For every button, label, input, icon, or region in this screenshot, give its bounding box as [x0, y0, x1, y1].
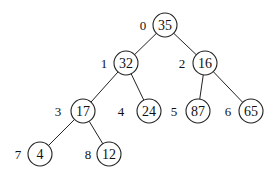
node-index-label: 6	[225, 104, 232, 119]
tree-node: 875	[171, 99, 210, 123]
node-index-label: 1	[101, 56, 108, 71]
node-value: 16	[198, 56, 212, 71]
tree-edge	[48, 119, 74, 145]
tree-node: 656	[225, 99, 263, 123]
node-value: 24	[142, 104, 156, 119]
node-index-label: 8	[85, 147, 92, 162]
tree-node: 350	[140, 13, 177, 37]
heap-tree-diagram: 35032116217324487565647128	[0, 0, 279, 172]
tree-node: 321	[101, 51, 138, 75]
tree-node: 173	[55, 99, 95, 123]
node-value: 4	[37, 147, 44, 162]
node-value: 65	[244, 104, 258, 119]
node-index-label: 4	[118, 104, 125, 119]
node-value: 32	[119, 56, 133, 71]
tree-node: 47	[15, 142, 52, 166]
node-index-label: 2	[179, 56, 186, 71]
tree-edge	[89, 121, 103, 143]
node-value: 17	[76, 104, 90, 119]
node-value: 87	[191, 104, 205, 119]
tree-node: 162	[179, 51, 217, 75]
tree-edges	[48, 33, 242, 145]
tree-edge	[131, 74, 144, 100]
tree-edge	[174, 33, 197, 54]
node-index-label: 5	[171, 104, 178, 119]
node-index-label: 0	[140, 18, 147, 33]
node-index-label: 3	[55, 104, 62, 119]
tree-edge	[91, 72, 118, 102]
node-value: 12	[102, 147, 116, 162]
tree-node: 128	[85, 142, 121, 166]
tree-svg: 35032116217324487565647128	[0, 0, 279, 172]
node-value: 35	[158, 18, 172, 33]
node-index-label: 7	[15, 147, 22, 162]
tree-edge	[213, 72, 242, 103]
tree-edge	[135, 33, 157, 54]
tree-node: 244	[118, 99, 161, 123]
tree-edge	[200, 75, 204, 99]
